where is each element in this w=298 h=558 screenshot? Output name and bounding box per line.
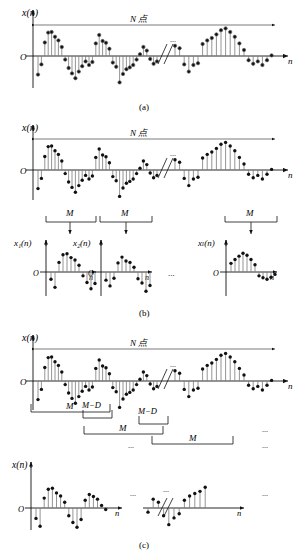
stem-marker: [242, 373, 245, 376]
stem-marker: [149, 382, 152, 385]
stem-marker: [132, 266, 135, 269]
stem-marker: [173, 369, 176, 372]
stem-marker: [124, 259, 127, 262]
stem-marker: [273, 273, 276, 276]
stem-marker: [92, 495, 95, 498]
stem-marker: [183, 63, 186, 66]
stem-marker: [104, 155, 107, 158]
m-bracket-b-1: M: [46, 208, 96, 234]
stem-marker: [108, 161, 111, 164]
stem-marker: [60, 159, 63, 162]
stem-marker: [138, 53, 141, 56]
stem-marker: [265, 384, 268, 387]
stem-marker: [51, 487, 54, 490]
stem-marker: [77, 184, 80, 187]
stem-marker: [265, 278, 268, 281]
stem-marker: [247, 173, 250, 176]
caption-a: (a): [139, 102, 149, 112]
stem-marker: [269, 276, 272, 279]
stem-marker: [183, 177, 186, 180]
stem-marker: [135, 172, 138, 175]
stem-marker: [242, 48, 245, 51]
stem-marker: [104, 366, 107, 369]
stem-marker: [198, 490, 201, 493]
stem-marker: [178, 372, 181, 375]
stem-marker: [125, 68, 128, 71]
stem-marker: [136, 277, 139, 280]
stem-marker: [172, 516, 175, 519]
stem-marker: [70, 72, 73, 75]
stem-marker: [215, 33, 218, 36]
stem-marker: [40, 177, 43, 180]
x-axis-label-c3: n: [237, 508, 241, 518]
figure-svg: x(n) O n N 点 ... (a) x(n) O n N 点 ...: [0, 0, 298, 558]
stem-marker: [219, 29, 222, 32]
stem-marker: [40, 63, 43, 66]
stem-marker: [238, 156, 241, 159]
stem-marker: [75, 526, 78, 529]
stem-marker: [233, 258, 236, 261]
stem-marker: [249, 258, 252, 261]
stem-marker: [104, 508, 107, 511]
bracket-c-MD1: M−D: [81, 400, 112, 418]
x-axis-label-b: n: [288, 170, 293, 180]
stem-marker: [219, 143, 222, 146]
stem-marker: [67, 66, 70, 69]
stem-marker: [112, 277, 115, 280]
stem-marker: [111, 175, 114, 178]
stem-marker: [50, 355, 53, 358]
stem-marker: [224, 27, 227, 30]
stem-marker: [128, 261, 131, 264]
stem-marker: [55, 491, 58, 494]
stem-marker: [40, 388, 43, 391]
stem-marker: [111, 386, 114, 389]
stem-marker: [77, 395, 80, 398]
stem-marker: [178, 161, 181, 164]
stem-marker: [53, 149, 56, 152]
stem-marker: [101, 364, 104, 367]
stem-marker: [73, 258, 76, 261]
origin-label-b: O: [20, 166, 27, 176]
stem-marker: [196, 387, 199, 390]
stem-marker: [138, 167, 141, 170]
stem-marker: [196, 62, 199, 65]
stem-marker: [252, 62, 255, 65]
stem-marker: [187, 70, 190, 73]
stem-marker: [69, 256, 72, 259]
stem-marker: [247, 59, 250, 62]
signal-segmentation-figure: x(n) O n N 点 ... (a) x(n) O n N 点 ...: [0, 0, 298, 558]
stem-marker: [74, 191, 77, 194]
stem-marker: [67, 180, 70, 183]
stem-marker: [121, 186, 124, 189]
stem-marker: [233, 149, 236, 152]
stem-marker: [261, 388, 264, 391]
stem-marker: [118, 406, 121, 409]
stem-marker: [270, 379, 273, 382]
m-label-b-2: M: [120, 208, 129, 218]
origin-label-x1: O: [33, 269, 39, 278]
stem-marker: [173, 158, 176, 161]
x1-label: x₁(n): [13, 238, 32, 248]
n-points-label-a: N 点: [129, 14, 148, 24]
x-axis-label-a: n: [288, 56, 293, 66]
stem-marker: [118, 81, 121, 84]
stem-marker: [87, 177, 90, 180]
stem-marker: [245, 254, 248, 257]
caption-b: (b): [139, 308, 150, 318]
stem-marker: [210, 361, 213, 364]
stem-marker: [192, 177, 195, 180]
n-points-label-b: N 点: [129, 128, 148, 138]
stem-marker: [173, 44, 176, 47]
stem-marker: [201, 42, 204, 45]
y-axis-label-b: x(n): [21, 122, 39, 134]
stem-marker: [108, 284, 111, 287]
stem-marker: [201, 156, 204, 159]
stem-marker: [140, 281, 143, 284]
m-label-c-2: M: [118, 423, 127, 433]
subsignal-x2: x₂(n) O n: [72, 238, 152, 296]
stem-marker: [67, 514, 70, 517]
m-label-b-L: M: [245, 208, 254, 218]
stem-marker: [59, 494, 62, 497]
stem-marker: [270, 168, 273, 171]
ellipsis-a: ...: [170, 35, 176, 44]
